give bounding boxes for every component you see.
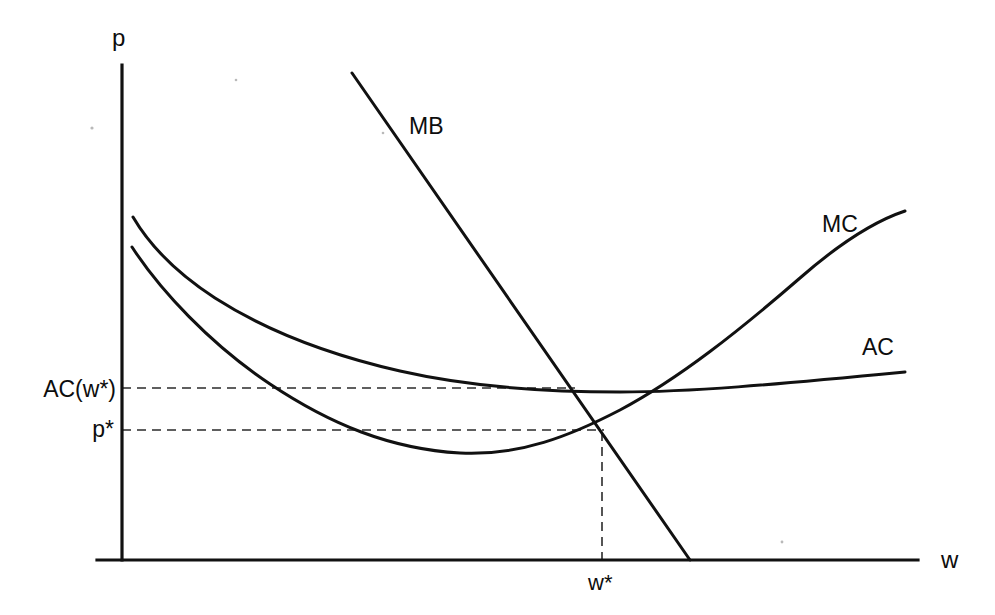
scan-speck: [235, 79, 238, 82]
mb-curve: [352, 73, 690, 560]
ac-at-wstar-label: AC(w*): [30, 378, 116, 401]
scan-speck: [90, 126, 93, 129]
scan-speck: [382, 132, 385, 135]
mb-curve-label: MB: [409, 115, 444, 138]
diagram-canvas: [0, 0, 995, 615]
p-star-label: p*: [30, 418, 114, 441]
w-star-label: w*: [588, 572, 612, 594]
cost-curves-figure: p w MB MC AC AC(w*) p* w*: [0, 0, 995, 615]
y-axis-label: p: [112, 26, 125, 50]
ac-curve-label: AC: [862, 336, 894, 359]
x-axis-label: w: [941, 548, 958, 572]
mc-curve-label: MC: [822, 213, 858, 236]
mc-curve: [132, 211, 905, 453]
ac-curve: [133, 217, 905, 392]
scan-speck: [781, 541, 784, 544]
